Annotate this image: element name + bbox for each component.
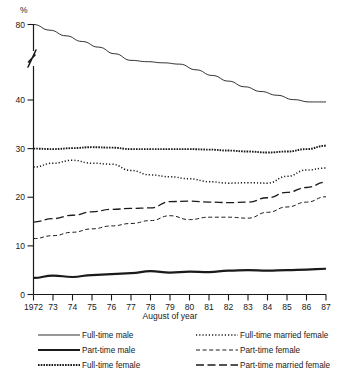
series-line — [34, 182, 327, 222]
x-tick-label: 82 — [224, 302, 234, 312]
series-line — [34, 269, 327, 278]
series-line — [34, 146, 327, 153]
y-tick-label: 10 — [16, 241, 26, 251]
x-tick-label: 77 — [126, 302, 136, 312]
series-line — [34, 197, 327, 239]
x-tick-label: 87 — [321, 302, 331, 312]
y-tick-label: 0 — [20, 290, 25, 300]
series-line — [34, 25, 327, 102]
y-tick-label: 40 — [16, 95, 26, 105]
x-axis-group: 1972737475767778798081828384858687 Augus… — [24, 295, 331, 322]
legend-item-label: Full-time married female — [240, 331, 329, 340]
x-tick-label: 83 — [243, 302, 253, 312]
x-tick-label: 74 — [68, 302, 78, 312]
y-tick-label: 80 — [16, 20, 26, 30]
x-tick-label: 73 — [48, 302, 58, 312]
line-chart: 01020304080 % 19727374757677787980818283… — [0, 0, 340, 375]
legend-item-label: Full-time male — [82, 331, 134, 340]
chart-container: 01020304080 % 19727374757677787980818283… — [0, 0, 340, 375]
y-axis-unit-label: % — [20, 5, 28, 15]
chart-legend: Full-time malePart-time maleFull-time fe… — [38, 331, 331, 370]
legend-item-label: Part-time female — [240, 346, 301, 355]
data-series-group — [34, 25, 327, 278]
x-tick-label: 85 — [282, 302, 292, 312]
legend-item-label: Part-time male — [82, 346, 136, 355]
series-line — [34, 160, 327, 183]
y-axis-group: 01020304080 % — [16, 5, 36, 300]
x-tick-label: 75 — [87, 302, 97, 312]
y-tick-label: 20 — [16, 192, 26, 202]
x-tick-marks — [34, 295, 327, 301]
x-axis-title: August of year — [143, 311, 198, 321]
x-tick-label: 84 — [263, 302, 273, 312]
legend-item-label: Full-time female — [82, 361, 141, 370]
axis-break-icon — [28, 50, 36, 67]
x-tick-label: 1972 — [24, 302, 43, 312]
y-tick-labels: 01020304080 — [16, 20, 26, 300]
x-tick-label: 81 — [204, 302, 214, 312]
legend-item-label: Part-time married female — [240, 361, 331, 370]
x-tick-label: 76 — [107, 302, 117, 312]
x-tick-label: 86 — [302, 302, 312, 312]
y-tick-label: 30 — [16, 144, 26, 154]
